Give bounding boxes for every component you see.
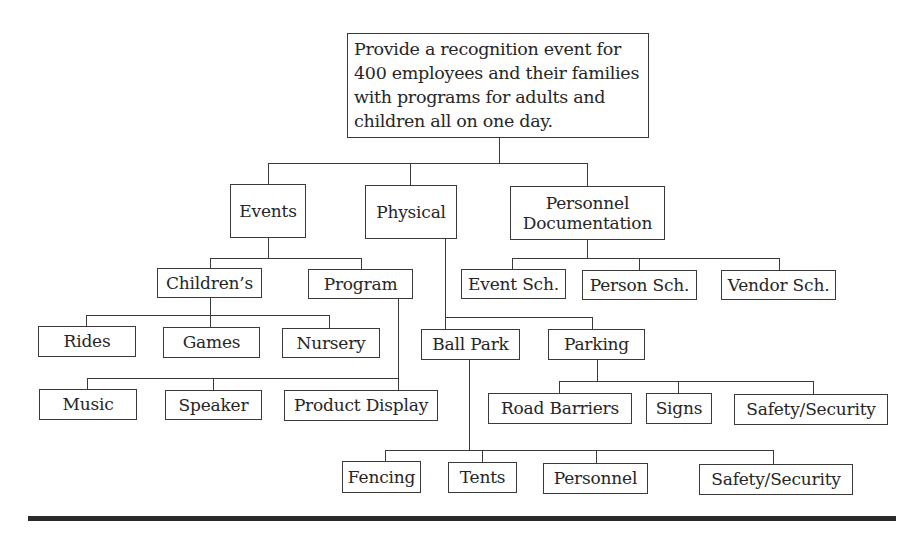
connector-stem <box>499 138 500 164</box>
connector-drop <box>410 163 411 186</box>
node-speaker: Speaker <box>165 390 262 420</box>
connector-stem <box>268 238 269 259</box>
connector-drop <box>596 450 597 464</box>
connector-drop <box>268 163 269 185</box>
node-ball-park: Ball Park <box>421 329 520 360</box>
connector-drop <box>592 317 593 330</box>
connector-drop <box>779 258 780 271</box>
connector-drop <box>559 381 560 394</box>
connector-drop <box>210 258 211 269</box>
node-event-sch: Event Sch. <box>461 269 566 299</box>
connector-bar <box>268 163 588 164</box>
node-parking-safety-security: Safety/Security <box>734 394 888 425</box>
connector-bar <box>210 258 362 259</box>
node-fencing: Fencing <box>342 461 421 493</box>
connector-drop <box>213 378 214 391</box>
connector-drop <box>385 450 386 462</box>
connector-drop <box>587 163 588 187</box>
connector-stem <box>597 360 598 382</box>
connector-stem <box>210 298 211 316</box>
connector-drop <box>86 315 87 327</box>
node-person-sch: Person Sch. <box>582 270 697 300</box>
root-objective-box: Provide a recognition event for 400 empl… <box>347 33 649 138</box>
connector-bar <box>445 317 593 318</box>
node-road-barriers: Road Barriers <box>488 393 632 424</box>
node-music: Music <box>39 389 137 420</box>
connector-bar <box>512 258 780 259</box>
connector-drop <box>361 258 362 270</box>
connector-drop <box>87 378 88 390</box>
connector-stem <box>445 239 446 318</box>
connector-drop <box>210 315 211 328</box>
node-vendor-sch: Vendor Sch. <box>721 270 836 300</box>
connector-drop <box>678 381 679 394</box>
node-personnel: Personnel <box>543 463 648 494</box>
bottom-rule-divider <box>28 516 896 521</box>
node-games: Games <box>163 327 260 358</box>
node-tents: Tents <box>448 462 517 493</box>
node-rides: Rides <box>38 326 136 357</box>
node-parking: Parking <box>548 329 645 360</box>
node-physical: Physical <box>365 185 457 239</box>
node-events: Events <box>230 184 306 238</box>
node-signs: Signs <box>646 393 712 424</box>
connector-drop <box>398 378 399 391</box>
node-childrens: Children’s <box>157 268 262 298</box>
connector-bar <box>87 378 399 379</box>
node-ballpark-safety-security: Safety/Security <box>699 464 853 495</box>
node-program: Program <box>308 269 413 299</box>
connector-stem <box>398 299 399 379</box>
connector-drop <box>813 381 814 395</box>
connector-drop <box>639 258 640 271</box>
connector-stem <box>469 360 470 451</box>
connector-bar <box>385 450 774 451</box>
wbs-diagram: Provide a recognition event for 400 empl… <box>0 0 921 533</box>
connector-bar <box>559 381 814 382</box>
connector-drop <box>773 450 774 465</box>
connector-stem <box>587 240 588 259</box>
connector-drop <box>512 258 513 270</box>
connector-drop <box>445 317 446 330</box>
connector-drop <box>329 315 330 329</box>
node-nursery: Nursery <box>282 328 380 358</box>
connector-bar <box>86 315 330 316</box>
connector-drop <box>482 450 483 463</box>
node-personnel-documentation: Personnel Documentation <box>510 186 665 240</box>
node-product-display: Product Display <box>284 390 438 421</box>
